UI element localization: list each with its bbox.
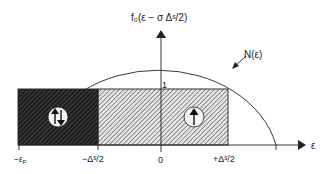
y-axis-label: f₀(ε − σ Δˢ/2) bbox=[131, 12, 187, 23]
up-arrow-icon bbox=[184, 107, 204, 127]
x-tick-label-neg-delta: −Δˢ/2 bbox=[82, 154, 104, 164]
diagram-canvas: f₀(ε − σ Δˢ/2) 1 N(ε) ε −εF −Δˢ/2 0 +Δˢ/… bbox=[0, 0, 332, 174]
x-tick-label-zero: 0 bbox=[158, 155, 163, 165]
x-tick-label-pos-delta: +Δˢ/2 bbox=[213, 154, 235, 164]
x-tick-label-neg-ef: −εF bbox=[14, 154, 27, 165]
curve-label: N(ε) bbox=[244, 49, 262, 60]
x-axis-label: ε bbox=[311, 140, 316, 151]
y-tick-label: 1 bbox=[162, 80, 167, 90]
x-axis-arrow-icon bbox=[298, 140, 306, 150]
up-down-arrows-icon bbox=[48, 107, 68, 127]
polarized-region bbox=[98, 89, 228, 145]
y-axis-arrow-icon bbox=[156, 30, 166, 38]
